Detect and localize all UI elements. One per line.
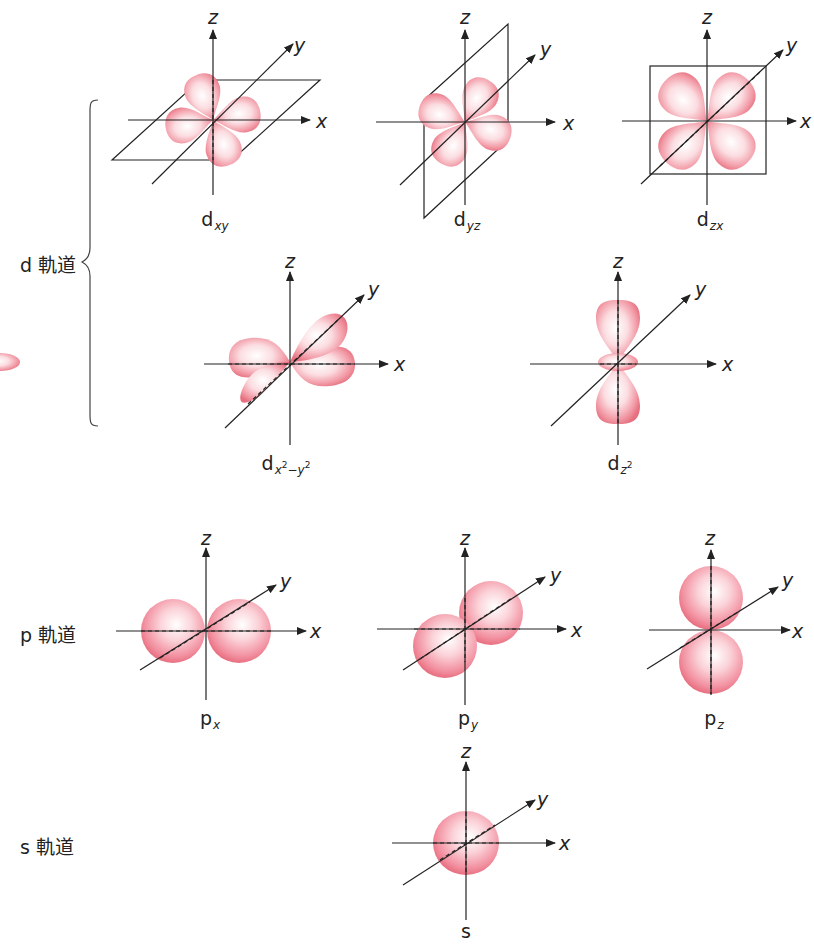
label-dyz-main: d (454, 208, 466, 230)
label-dzx-main: d (697, 208, 709, 230)
d-group-brace (82, 100, 98, 426)
label-dxy-sub: xy (214, 219, 228, 233)
svg-text:x: x (721, 353, 734, 375)
svg-text:z: z (459, 6, 471, 28)
svg-text:z: z (284, 250, 296, 272)
label-dx2y2: dx2−y2 (262, 452, 311, 477)
orbital-px: z y x (116, 527, 322, 700)
label-px: px (200, 707, 220, 732)
svg-text:x: x (791, 620, 804, 642)
svg-text:z: z (207, 6, 219, 28)
svg-text:z: z (612, 250, 624, 272)
label-py-sub: y (471, 718, 478, 732)
orbital-py: z y x (377, 527, 583, 705)
label-dx2y2-main: d (262, 452, 274, 474)
label-s-main: s (461, 920, 471, 942)
orbital-dyz: z y x (376, 6, 575, 218)
svg-text:y: y (293, 34, 306, 56)
orbital-s: z y x (392, 740, 571, 920)
svg-text:z: z (459, 527, 471, 549)
group-label-s: s 軌道 (20, 832, 74, 859)
orbital-dx2y2: z y x (204, 250, 406, 445)
svg-text:x: x (570, 619, 583, 641)
orbital-dz2: z y x (0, 250, 734, 445)
svg-text:y: y (539, 38, 552, 60)
label-py-main: p (458, 707, 470, 729)
svg-text:x: x (562, 112, 575, 134)
group-label-d: d 軌道 (20, 250, 76, 277)
svg-text:x: x (558, 832, 571, 854)
svg-text:y: y (279, 570, 292, 592)
label-pz-main: p (704, 707, 716, 729)
svg-text:y: y (694, 278, 707, 300)
label-px-sub: x (213, 718, 220, 732)
svg-text:z: z (200, 527, 212, 549)
svg-text:y: y (785, 34, 798, 56)
svg-text:y: y (367, 278, 380, 300)
label-s: s (461, 920, 471, 942)
orbital-dxy: z y x (112, 6, 328, 195)
svg-text:z: z (704, 527, 716, 549)
label-dxy-main: d (201, 208, 213, 230)
label-dyz-sub: yz (467, 219, 480, 233)
label-dz2: dz2 (607, 452, 632, 477)
label-pz: pz (704, 707, 723, 732)
svg-text:x: x (393, 353, 406, 375)
group-label-p: p 軌道 (20, 620, 76, 647)
label-dyz: dyz (454, 208, 480, 233)
svg-text:z: z (460, 740, 472, 762)
svg-text:x: x (309, 620, 322, 642)
label-py: py (458, 707, 478, 732)
label-pz-sub: z (717, 718, 723, 732)
svg-text:x: x (315, 110, 328, 132)
label-dx2y2-sub-y: −y (288, 463, 305, 477)
svg-text:z: z (701, 6, 713, 28)
orbital-diagram: z y x z y x z y x (0, 0, 814, 946)
label-dzx-sub: zx (710, 219, 723, 233)
label-dz2-main: d (607, 452, 619, 474)
label-dz2-sup: 2 (627, 460, 633, 470)
orbital-dzx: z y x (622, 6, 812, 205)
label-px-main: p (200, 707, 212, 729)
label-dxy: dxy (201, 208, 228, 233)
orbital-pz: z y x (647, 527, 804, 695)
svg-text:y: y (781, 569, 794, 591)
label-dzx: dzx (697, 208, 723, 233)
svg-text:y: y (536, 788, 549, 810)
svg-text:y: y (549, 564, 562, 586)
svg-text:x: x (799, 110, 812, 132)
label-dx2y2-sup-2: 2 (305, 460, 311, 470)
